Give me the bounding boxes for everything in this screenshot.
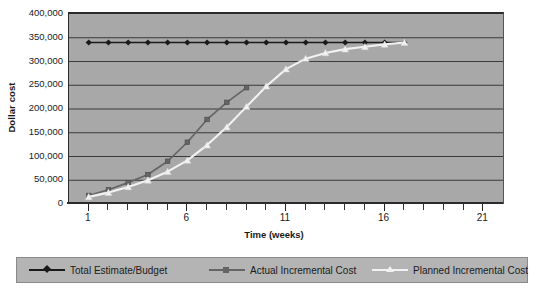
data-point-marker	[243, 39, 249, 45]
y-axis-tick-label: 150,000	[29, 125, 63, 136]
x-axis-tick	[206, 204, 207, 210]
x-axis-tick	[88, 204, 89, 211]
data-point-marker	[303, 39, 309, 45]
x-axis-tick-label: 21	[477, 212, 488, 223]
data-point-marker	[204, 39, 210, 45]
legend-marker-icon	[209, 263, 245, 277]
data-point-marker	[146, 172, 151, 177]
legend-label: Actual Incremental Cost	[250, 265, 356, 276]
legend-item[interactable]: Planned Incremental Cost	[372, 257, 528, 283]
legend-item[interactable]: Actual Incremental Cost	[209, 257, 356, 283]
x-axis-tick	[324, 204, 325, 210]
x-axis-tick-label: 11	[280, 212, 290, 223]
data-series	[85, 39, 407, 200]
data-point-marker	[224, 39, 230, 45]
x-axis-tick	[443, 204, 444, 210]
x-axis-tick	[463, 204, 464, 210]
x-axis-tick	[482, 204, 483, 211]
data-point-marker	[105, 39, 111, 45]
x-axis-tick-labels: 16111621	[68, 212, 502, 228]
data-point-marker	[283, 39, 289, 45]
y-axis-tick-label: 0	[58, 197, 63, 208]
data-point-marker	[165, 39, 171, 45]
data-series	[86, 85, 248, 197]
legend-marker-icon	[29, 263, 65, 277]
y-axis-tick-labels: 050,000100,000150,000200,000250,000300,0…	[20, 0, 67, 215]
x-axis-tick	[147, 204, 148, 210]
y-axis-tick-label: 50,000	[34, 173, 63, 184]
data-point-marker	[185, 140, 190, 145]
x-axis-tick	[364, 204, 365, 210]
plot-area	[68, 12, 504, 204]
chart-legend: Total Estimate/BudgetActual Incremental …	[16, 257, 528, 283]
series-line	[89, 88, 247, 196]
y-axis-tick-label: 350,000	[29, 30, 63, 41]
x-axis-tick	[186, 204, 187, 211]
plot-svg	[69, 14, 503, 204]
data-point-marker	[225, 100, 230, 105]
x-axis-tick-label: 1	[85, 212, 91, 223]
x-axis-tick	[246, 204, 247, 210]
x-axis-tick	[167, 204, 168, 210]
y-axis-tick-label: 300,000	[29, 54, 63, 65]
x-axis-tick-label: 16	[378, 212, 389, 223]
y-axis-tick-label: 200,000	[29, 102, 63, 113]
y-axis-tick-label: 100,000	[29, 149, 63, 160]
x-axis-ticks	[68, 204, 502, 211]
x-axis-tick	[403, 204, 404, 210]
data-point-marker	[205, 117, 210, 122]
data-point-marker	[342, 39, 348, 45]
x-axis-tick	[127, 204, 128, 210]
data-point-marker	[145, 39, 151, 45]
data-point-marker	[125, 39, 131, 45]
x-axis-tick	[107, 204, 108, 210]
y-axis-tick-label: 250,000	[29, 78, 63, 89]
x-axis-tick	[285, 204, 286, 211]
x-axis-tick	[384, 204, 385, 211]
x-axis-tick	[265, 204, 266, 210]
data-point-marker	[86, 39, 92, 45]
legend-item[interactable]: Total Estimate/Budget	[29, 257, 167, 283]
y-axis-tick-label: 400,000	[29, 7, 63, 18]
x-axis-tick	[305, 204, 306, 210]
data-point-marker	[184, 39, 190, 45]
x-axis-tick	[344, 204, 345, 210]
series-line	[89, 43, 405, 197]
x-axis-tick	[423, 204, 424, 210]
y-axis-title: Dollar cost	[0, 0, 22, 215]
data-point-marker	[165, 159, 170, 164]
data-point-marker	[244, 85, 249, 90]
data-series	[86, 39, 408, 45]
x-axis-tick-label: 6	[184, 212, 190, 223]
data-point-marker	[322, 39, 328, 45]
legend-marker-icon	[372, 263, 408, 277]
legend-label: Total Estimate/Budget	[70, 265, 167, 276]
x-axis-tick	[226, 204, 227, 210]
data-point-marker	[263, 39, 269, 45]
x-axis-title: Time (weeks)	[0, 229, 548, 240]
chart-container: Dollar cost 050,000100,000150,000200,000…	[0, 0, 548, 293]
y-axis-title-text: Dollar cost	[6, 82, 17, 132]
legend-label: Planned Incremental Cost	[413, 265, 528, 276]
